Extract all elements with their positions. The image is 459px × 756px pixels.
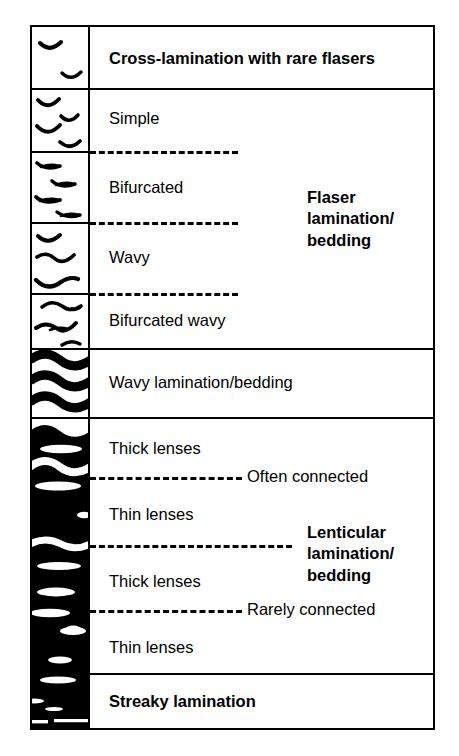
symbol-cross-lamination <box>32 27 90 88</box>
rule-above-streaky <box>90 673 433 675</box>
note-rarely-connected: Rarely connected <box>247 600 375 619</box>
label-wavy: Wavy <box>109 248 150 267</box>
dash-rule-rarely-connected <box>90 610 242 613</box>
dash-rule-simple-bifurcated <box>90 151 238 154</box>
label-wavy-lamination: Wavy lamination/bedding <box>109 373 293 392</box>
symbol-column <box>32 27 90 728</box>
label-thin-lenses-1: Thin lenses <box>109 505 193 524</box>
group-label-lenticular-line2: lamination/ <box>307 543 427 564</box>
label-bifurcated-wavy: Bifurcated wavy <box>109 311 225 330</box>
label-cross-lamination: Cross-lamination with rare flasers <box>109 49 375 68</box>
description-area: Cross-lamination with rare flasers Simpl… <box>90 27 433 728</box>
symbol-lenticular-and-streaky <box>32 419 90 728</box>
label-simple: Simple <box>109 109 159 128</box>
group-label-lenticular-line3: bedding <box>307 565 427 586</box>
group-label-lenticular-line1: Lenticular <box>307 522 427 543</box>
symbol-bifurcated-flaser <box>32 153 90 222</box>
label-thick-lenses-2: Thick lenses <box>109 572 201 591</box>
symbol-wavy-flaser <box>32 224 90 293</box>
rule-below-cross-lamination <box>90 88 433 90</box>
group-label-flaser-line2: lamination/ <box>307 208 427 229</box>
note-often-connected: Often connected <box>247 467 368 486</box>
label-thin-lenses-2: Thin lenses <box>109 638 193 657</box>
rule-below-flaser-group <box>90 348 433 350</box>
symbol-bifurcated-wavy-flaser <box>32 295 90 348</box>
bedding-classification-diagram: Cross-lamination with rare flasers Simpl… <box>30 25 435 730</box>
dash-rule-mid-lenticular <box>90 545 292 548</box>
group-label-flaser: Flaser lamination/ bedding <box>307 187 427 251</box>
symbol-simple-flaser <box>32 90 90 151</box>
dash-rule-bifurcated-wavy <box>90 222 238 225</box>
label-bifurcated: Bifurcated <box>109 178 183 197</box>
dash-rule-wavy-bifurcatedwavy <box>90 293 238 296</box>
group-label-flaser-line3: bedding <box>307 230 427 251</box>
label-streaky-lamination: Streaky lamination <box>109 692 256 711</box>
label-thick-lenses-1: Thick lenses <box>109 439 201 458</box>
dash-rule-often-connected <box>90 477 242 480</box>
symbol-wavy-lamination <box>32 350 90 417</box>
group-label-flaser-line1: Flaser <box>307 187 427 208</box>
group-label-lenticular: Lenticular lamination/ bedding <box>307 522 427 586</box>
rule-below-wavy-lamination <box>90 417 433 419</box>
